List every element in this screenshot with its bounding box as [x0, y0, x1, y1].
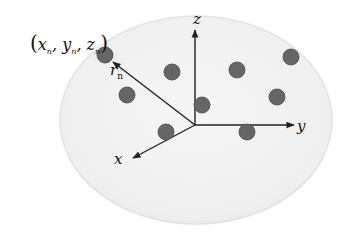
- data-point: [283, 49, 299, 65]
- data-point: [269, 89, 285, 105]
- data-point: [239, 124, 255, 140]
- point-coordinate-label: (xn, yn, zn): [30, 31, 108, 56]
- z-axis-label: z: [192, 10, 201, 28]
- sphere-points-diagram: zyx rn (xn, yn, zn): [0, 0, 343, 236]
- data-point: [158, 124, 174, 140]
- data-point: [164, 64, 180, 80]
- y-axis-label: y: [296, 117, 306, 135]
- data-point: [194, 97, 210, 113]
- data-point: [119, 87, 135, 103]
- data-point: [229, 62, 245, 78]
- x-axis-label: x: [114, 150, 123, 168]
